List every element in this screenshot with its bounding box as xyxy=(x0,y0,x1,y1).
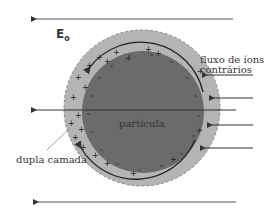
svg-text:+: + xyxy=(92,151,99,160)
svg-text:+: + xyxy=(80,143,87,152)
svg-text:+: + xyxy=(130,169,137,178)
svg-text:+: + xyxy=(96,53,103,62)
svg-text:+: + xyxy=(104,159,111,168)
svg-text:+: + xyxy=(113,48,120,57)
double-layer-label: dupla camada xyxy=(16,154,87,165)
svg-text:+: + xyxy=(104,57,111,66)
svg-text:+: + xyxy=(125,54,132,63)
svg-text:+: + xyxy=(82,83,89,92)
svg-text:+: + xyxy=(75,111,82,120)
svg-text:+: + xyxy=(68,119,75,128)
svg-text:+: + xyxy=(86,61,93,70)
particle-label: partícula xyxy=(119,118,165,129)
electrophoresis-diagram: + + + + + + + + + + + + + + + + + + + + … xyxy=(0,0,265,211)
svg-text:+: + xyxy=(196,126,203,135)
double-layer-leader xyxy=(47,128,70,150)
field-label: Eo xyxy=(56,27,70,43)
svg-text:+: + xyxy=(155,49,162,58)
svg-text:+: + xyxy=(78,125,85,134)
svg-text:+: + xyxy=(75,73,82,82)
svg-text:+: + xyxy=(70,93,77,102)
svg-text:+: + xyxy=(72,133,79,142)
counterion-flow-label-2: contrários xyxy=(200,64,252,75)
svg-text:+: + xyxy=(170,155,177,164)
svg-text:+: + xyxy=(145,45,152,54)
